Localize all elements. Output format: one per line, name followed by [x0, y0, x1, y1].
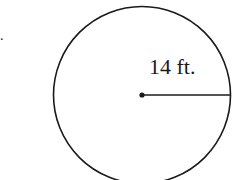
stray-mark: . — [0, 28, 4, 43]
radius-label: 14 ft. — [149, 54, 195, 79]
center-point — [139, 92, 144, 97]
circle-diagram: . 14 ft. — [0, 0, 242, 180]
